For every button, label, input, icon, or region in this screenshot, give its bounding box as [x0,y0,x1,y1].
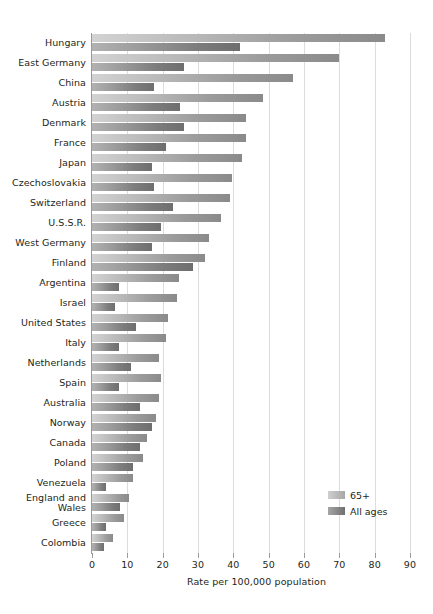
bar-all-ages[interactable] [92,283,119,291]
x-tick-label: 90 [395,559,425,570]
x-tick-mark [198,553,199,558]
bar-65plus[interactable] [92,294,177,302]
bar-65plus[interactable] [92,74,293,82]
x-tick-label: 0 [77,559,107,570]
x-tick-mark [339,553,340,558]
bar-65plus[interactable] [92,354,159,362]
bar-row: Argentina [0,273,433,293]
chart-legend: 65+ All ages [328,487,387,519]
bar-row: Czechoslovakia [0,173,433,193]
bar-65plus[interactable] [92,534,113,542]
bar-all-ages[interactable] [92,483,106,491]
bar-row: West Germany [0,233,433,253]
bar-all-ages[interactable] [92,443,140,451]
category-label: Canada [0,438,86,448]
bar-65plus[interactable] [92,474,133,482]
category-label: Czechoslovakia [0,178,86,188]
x-tick-mark [304,553,305,558]
category-label: Switzerland [0,198,86,208]
bar-65plus[interactable] [92,194,230,202]
suicide-rate-bar-chart: 0102030405060708090 HungaryEast GermanyC… [0,0,433,614]
bar-65plus[interactable] [92,34,385,42]
bar-all-ages[interactable] [92,383,119,391]
bar-all-ages[interactable] [92,43,240,51]
bar-all-ages[interactable] [92,103,180,111]
bar-all-ages[interactable] [92,423,152,431]
bar-65plus[interactable] [92,54,339,62]
bar-65plus[interactable] [92,394,159,402]
bar-all-ages[interactable] [92,323,136,331]
bar-65plus[interactable] [92,134,246,142]
legend-item-all-ages[interactable]: All ages [328,503,387,519]
category-label: France [0,138,86,148]
bar-row: United States [0,313,433,333]
x-tick-mark [375,553,376,558]
bar-all-ages[interactable] [92,63,184,71]
bar-all-ages[interactable] [92,203,173,211]
category-label: Austria [0,98,86,108]
category-label: Greece [0,518,86,528]
bar-all-ages[interactable] [92,463,133,471]
x-tick-mark [127,553,128,558]
x-tick-label: 30 [183,559,213,570]
category-label: Israel [0,298,86,308]
bar-65plus[interactable] [92,414,156,422]
bar-row: U.S.S.R. [0,213,433,233]
bar-65plus[interactable] [92,94,263,102]
bar-65plus[interactable] [92,334,166,342]
legend-swatch-all-ages-icon [328,507,345,515]
bar-all-ages[interactable] [92,223,161,231]
bar-65plus[interactable] [92,314,168,322]
bar-row: Australia [0,393,433,413]
category-label: Finland [0,258,86,268]
x-tick-mark [269,553,270,558]
bar-65plus[interactable] [92,234,209,242]
x-tick-mark [163,553,164,558]
legend-item-65plus[interactable]: 65+ [328,487,387,503]
bar-65plus[interactable] [92,274,179,282]
bar-row: Spain [0,373,433,393]
bar-65plus[interactable] [92,174,232,182]
bar-row: Poland [0,453,433,473]
bar-all-ages[interactable] [92,123,184,131]
bar-row: Netherlands [0,353,433,373]
category-label: West Germany [0,238,86,248]
category-label: East Germany [0,58,86,68]
bar-all-ages[interactable] [92,263,193,271]
bar-65plus[interactable] [92,454,143,462]
bar-all-ages[interactable] [92,163,152,171]
bar-65plus[interactable] [92,154,242,162]
x-tick-label: 20 [148,559,178,570]
bar-65plus[interactable] [92,374,161,382]
category-label: Spain [0,378,86,388]
x-tick-mark [410,553,411,558]
bar-row: Finland [0,253,433,273]
bar-all-ages[interactable] [92,183,154,191]
bar-all-ages[interactable] [92,403,140,411]
bar-65plus[interactable] [92,254,205,262]
bar-all-ages[interactable] [92,543,104,551]
bar-65plus[interactable] [92,214,221,222]
bar-all-ages[interactable] [92,503,120,511]
x-tick-mark [92,553,93,558]
bar-all-ages[interactable] [92,143,166,151]
bar-row: Norway [0,413,433,433]
bar-65plus[interactable] [92,114,246,122]
bar-65plus[interactable] [92,494,129,502]
bar-all-ages[interactable] [92,243,152,251]
bar-65plus[interactable] [92,514,124,522]
bar-all-ages[interactable] [92,363,131,371]
category-label: Denmark [0,118,86,128]
bar-65plus[interactable] [92,434,147,442]
bar-all-ages[interactable] [92,523,106,531]
category-label: United States [0,318,86,328]
bar-all-ages[interactable] [92,303,115,311]
legend-label-all-ages: All ages [350,506,387,517]
x-axis-title: Rate per 100,000 population [0,576,433,587]
bar-all-ages[interactable] [92,83,154,91]
bar-all-ages[interactable] [92,343,119,351]
category-label: Poland [0,458,86,468]
category-label: China [0,78,86,88]
x-tick-label: 70 [324,559,354,570]
category-label: Venezuela [0,478,86,488]
